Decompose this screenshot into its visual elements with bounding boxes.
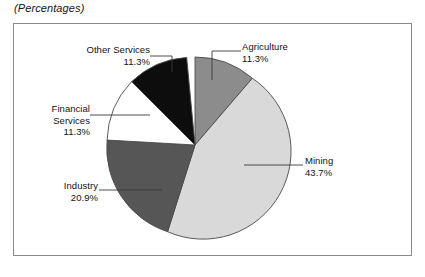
pie-label-mining-value: 43.7% — [305, 167, 375, 179]
pie-label-industry-value: 20.9% — [26, 192, 98, 204]
pie-label-agriculture: Agriculture 11.3% — [242, 41, 332, 64]
pie-label-other-services: Other Services 11.3% — [58, 44, 150, 67]
pie-label-mining-name: Mining — [305, 155, 375, 167]
pie-label-financial-services-name-line2: Services — [12, 115, 90, 127]
pie-label-agriculture-value: 11.3% — [242, 53, 332, 65]
pie-label-financial-services-value: 11.3% — [12, 126, 90, 138]
pie-label-other-services-name: Other Services — [58, 44, 150, 56]
pie-label-industry-name: Industry — [26, 180, 98, 192]
pie-label-financial-services-name-line1: Financial — [12, 103, 90, 115]
pie-label-mining: Mining 43.7% — [305, 155, 375, 178]
pie-label-industry: Industry 20.9% — [26, 180, 98, 203]
pie-chart — [0, 0, 425, 277]
pie-label-agriculture-name: Agriculture — [242, 41, 332, 53]
pie-label-financial-services: Financial Services 11.3% — [12, 103, 90, 138]
pie-label-other-services-value: 11.3% — [58, 56, 150, 68]
